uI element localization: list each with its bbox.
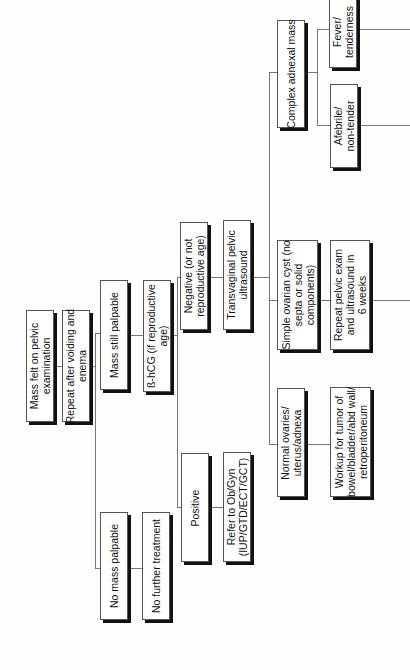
node-label: Mass still palpable	[108, 292, 120, 378]
node-label: No mass palpable	[108, 524, 120, 608]
node-label: Fever/ tenderness	[331, 6, 355, 58]
node-label: ß-hCG (if reproductive age)	[145, 284, 169, 388]
node-no-mass-palpable: No mass palpable	[100, 512, 128, 620]
connector	[128, 568, 142, 569]
connector	[317, 29, 318, 125]
connector	[251, 277, 269, 278]
connector	[177, 277, 178, 507]
node-mass-felt: Mass felt on pelvic examination	[26, 310, 54, 422]
connector	[269, 72, 277, 73]
connector	[128, 335, 143, 336]
node-label: Repeat after voiding and enema	[64, 309, 88, 423]
node-workup-tumor: Workup for tumor of bowel/bladder/abd wa…	[330, 387, 371, 497]
node-label: Negative (or not reproductive age)	[182, 235, 206, 317]
connector	[95, 333, 96, 568]
node-bhcg: ß-hCG (if reproductive age)	[143, 280, 171, 392]
node-afebrile: Afebrile/ non-tender	[330, 84, 358, 168]
node-label: Positive	[189, 489, 201, 526]
node-simple-ovarian-cyst: Simple ovarian cyst (no septa or solid c…	[277, 240, 318, 350]
node-negative: Negative (or not reproductive age)	[180, 222, 208, 330]
connector	[305, 72, 317, 73]
node-label: Workup for tumor of bowel/bladder/abd wa…	[333, 387, 369, 497]
node-label: Repeat pelvic exam and ultrasound in 6 w…	[332, 249, 368, 341]
connector	[54, 366, 62, 367]
connector	[269, 300, 277, 301]
node-complex-adnexal-mass: Complex adnexal mass	[277, 20, 305, 128]
node-refer-obgyn: Refer to Ob/Gyn (IUP/GTD/ECT/GCT)	[223, 452, 251, 562]
connector	[90, 366, 95, 367]
node-label: Transvaginal pelvic ultrasound	[225, 230, 249, 320]
connector	[269, 72, 270, 444]
connector	[370, 300, 410, 301]
node-repeat-pelvic-exam: Repeat pelvic exam and ultrasound in 6 w…	[330, 240, 370, 350]
node-label: No further treatment	[150, 519, 162, 613]
node-positive: Positive	[181, 453, 209, 562]
connector	[357, 29, 410, 30]
node-label: Mass felt on pelvic examination	[28, 323, 52, 409]
connector	[269, 444, 277, 445]
node-no-further-treatment: No further treatment	[142, 512, 170, 620]
node-repeat-voiding: Repeat after voiding and enema	[62, 310, 90, 422]
node-label: Simple ovarian cyst (no septa or solid c…	[280, 240, 316, 349]
node-transvaginal-ultrasound: Transvaginal pelvic ultrasound	[223, 220, 251, 330]
node-label: Refer to Ob/Gyn (IUP/GTD/ECT/GCT)	[225, 458, 249, 557]
connector	[305, 444, 330, 445]
node-fever-tenderness: Fever/ tenderness	[329, 0, 357, 68]
node-mass-still-palpable: Mass still palpable	[100, 280, 128, 390]
connector	[317, 29, 329, 30]
connector	[209, 507, 223, 508]
node-label: Afebrile/ non-tender	[332, 101, 356, 152]
connector	[358, 125, 410, 126]
connector	[318, 300, 330, 301]
connector	[208, 277, 223, 278]
node-normal-ovaries: Normal ovaries/ uterus/adnexa	[277, 388, 305, 497]
connector	[317, 125, 330, 126]
node-label: Complex adnexal mass	[285, 19, 297, 128]
node-label: Normal ovaries/ uterus/adnexa	[279, 406, 303, 480]
